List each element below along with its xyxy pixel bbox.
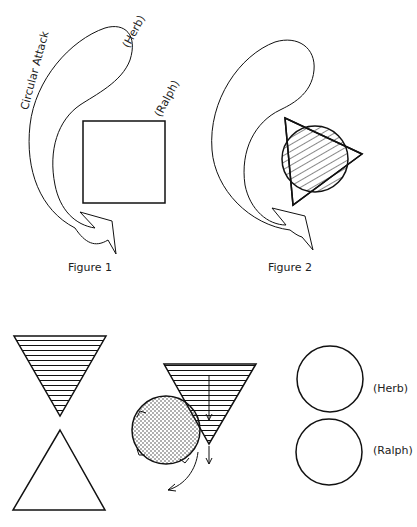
plain-triangle [13, 430, 105, 510]
circle-herb [297, 346, 363, 412]
label-ralph: (Ralph) [373, 444, 413, 457]
hatched-inverted-triangle [14, 336, 106, 416]
dotted-circle [132, 396, 200, 464]
label-herb: (Herb) [373, 382, 408, 395]
figure1-caption: Figure 1 [68, 261, 112, 274]
figure2-caption: Figure 2 [268, 261, 312, 274]
circle-ralph [296, 419, 362, 485]
figure2-hatched-circle [282, 126, 348, 192]
figure1-square [83, 121, 165, 203]
